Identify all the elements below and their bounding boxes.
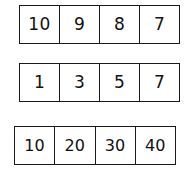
- number-strip-row-3: 10 20 30 40: [14, 126, 176, 165]
- number-cell: 3: [60, 64, 100, 101]
- number-cell: 1: [20, 64, 60, 101]
- number-cell: 7: [140, 6, 179, 43]
- number-cell: 30: [96, 127, 136, 164]
- number-cell: 5: [100, 64, 140, 101]
- number-cell: 9: [60, 6, 100, 43]
- number-cell: 7: [140, 64, 179, 101]
- number-strip-row-2: 1 3 5 7: [19, 63, 180, 102]
- number-strip-row-1: 10 9 8 7: [19, 5, 180, 44]
- number-cell: 8: [100, 6, 140, 43]
- number-cell: 20: [55, 127, 95, 164]
- number-cell: 10: [15, 127, 55, 164]
- number-cell: 40: [136, 127, 175, 164]
- number-sequence-worksheet: 10 9 8 7 1 3 5 7 10 20 30 40: [0, 0, 190, 174]
- number-cell: 10: [20, 6, 60, 43]
